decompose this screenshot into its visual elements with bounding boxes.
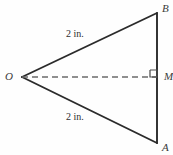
measure-label-lower-side: 2 in. xyxy=(66,112,84,122)
geometry-figure: O B A M 2 in. 2 in. xyxy=(0,0,173,155)
vertex-label-M: M xyxy=(164,71,173,82)
measure-label-upper-side: 2 in. xyxy=(66,29,84,39)
right-angle-marker-icon xyxy=(150,70,157,77)
vertex-label-A: A xyxy=(162,142,169,153)
segment-OB xyxy=(22,13,157,77)
vertex-label-O: O xyxy=(5,71,13,82)
vertex-label-B: B xyxy=(162,3,169,14)
segment-OA xyxy=(22,77,157,143)
figure-canvas xyxy=(0,0,173,155)
